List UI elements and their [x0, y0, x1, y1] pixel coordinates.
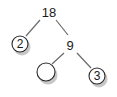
edge-9-to-3: [77, 53, 91, 68]
node-3: 3: [89, 68, 108, 88]
edge-9-to-blank: [52, 53, 64, 64]
node-blank: [37, 63, 58, 85]
node-2: 2: [12, 36, 31, 56]
node-3-label: 3: [94, 69, 101, 83]
factor-tree-diagram: 18 2 9 3: [0, 0, 117, 97]
node-9-label: 9: [66, 38, 73, 53]
node-18-label: 18: [42, 5, 56, 20]
node-blank-circle: [37, 63, 55, 81]
node-2-label: 2: [17, 37, 24, 51]
edge-18-to-9: [56, 20, 68, 35]
edge-18-to-2: [26, 20, 40, 36]
